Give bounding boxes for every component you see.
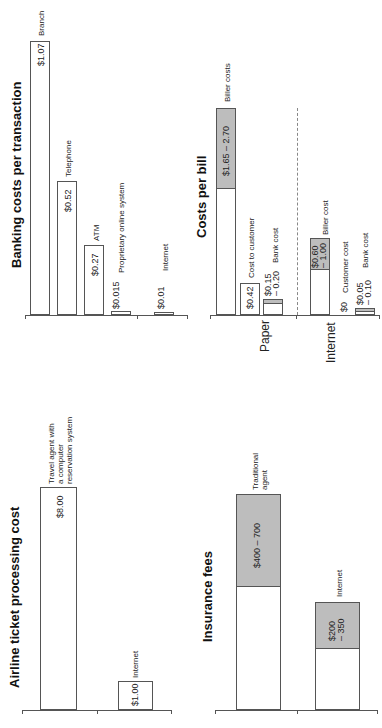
label-paper-biller: Biller costs — [223, 63, 232, 102]
label-internet-customer: Customer cost — [341, 241, 350, 293]
label-internet-insurance: Internet — [335, 570, 344, 597]
label-paper-bank: Bank cost — [271, 228, 280, 263]
bar-travel-agent — [40, 487, 77, 710]
value-proprietary: $0.015 — [112, 281, 121, 309]
value-paper-biller: $1.65 – 2.70 — [222, 126, 231, 176]
tick — [215, 710, 216, 714]
tick — [297, 710, 298, 714]
value-atm: $0.27 — [91, 253, 100, 276]
group-label-internet: Internet — [325, 322, 337, 363]
label-travel-agent-1: Travel agent with — [47, 423, 56, 484]
tick — [97, 710, 98, 714]
tick — [137, 315, 138, 319]
range-internet-bank — [355, 308, 375, 312]
value-internet-airline: $1.00 — [131, 683, 140, 706]
tick — [22, 710, 23, 714]
label-internet: Internet — [161, 244, 170, 271]
label-internet-airline: Internet — [131, 651, 140, 678]
label-traditional-agent-2: agent — [260, 470, 269, 490]
value-internet-customer: $0 — [340, 302, 349, 312]
label-internet-biller: Biller cost — [321, 200, 330, 235]
label-telephone: Telephone — [64, 140, 73, 177]
tick — [210, 315, 211, 319]
label-internet-bank: Bank cost — [361, 233, 370, 268]
group-divider — [297, 108, 298, 315]
value-telephone: $0.52 — [64, 189, 73, 212]
tick — [187, 315, 188, 319]
value-internet-insurance-2: – 350 — [337, 618, 346, 641]
bills-axis — [210, 315, 380, 316]
range-paper-bank — [263, 299, 283, 304]
tick — [377, 710, 378, 714]
value-internet-biller-2: – 1.00 — [319, 243, 328, 268]
value-internet: $0.01 — [157, 286, 166, 309]
value-internet-bank-2: – 0.10 — [364, 280, 373, 305]
banking-title: Banking costs per transaction — [10, 82, 24, 268]
label-proprietary: Proprietary online system — [117, 183, 126, 273]
tick — [25, 315, 26, 319]
group-label-paper: Paper — [259, 320, 271, 352]
airline-title: Airline ticket processing cost — [8, 507, 22, 688]
label-paper-customer: Cost to customer — [247, 218, 256, 278]
label-traditional-agent-1: Traditional — [251, 453, 260, 490]
value-paper-customer: $0.42 — [246, 286, 255, 309]
tick — [171, 710, 172, 714]
label-branch: Branch — [37, 11, 46, 36]
insurance-title: Insurance fees — [201, 551, 215, 642]
banking-axis — [25, 315, 188, 316]
label-travel-agent-2: a computer — [56, 444, 65, 484]
tick — [379, 315, 380, 319]
value-branch: $1.07 — [37, 43, 46, 66]
value-traditional-agent: $400 – 700 — [253, 523, 262, 568]
label-atm: ATM — [92, 225, 101, 241]
bills-title: Costs per bill — [195, 156, 209, 238]
value-travel-agent: $8.00 — [56, 495, 65, 518]
value-paper-bank-2: – 0.20 — [272, 271, 281, 296]
tick — [296, 315, 297, 319]
bar-branch — [30, 41, 50, 315]
label-travel-agent-3: reservation system — [65, 417, 74, 484]
